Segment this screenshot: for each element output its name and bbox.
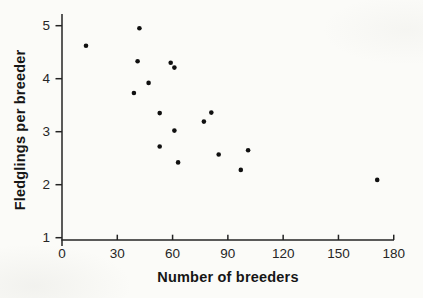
data-point [168,61,173,66]
x-axis-tick-labels: 0306090120150180 [58,246,405,261]
x-tick-label: 60 [165,246,180,261]
x-axis-label: Number of breeders [157,269,298,285]
y-tick-label: 2 [42,177,50,192]
x-tick-label: 180 [382,246,405,261]
y-tick-label: 5 [42,18,50,33]
scatter-plot-figure: 12345 0306090120150180 Number of breeder… [0,0,423,298]
data-point [135,59,140,64]
y-tick-label: 4 [42,71,50,86]
y-axis-tick-labels: 12345 [42,18,50,245]
x-tick-label: 90 [220,246,235,261]
data-point [202,119,207,124]
data-point [176,160,181,165]
data-point [239,168,244,173]
x-tick-label: 150 [327,246,350,261]
data-point [146,81,151,86]
data-point [375,178,380,183]
data-point [84,44,89,49]
data-point [157,111,162,116]
data-point [216,152,221,157]
y-axis-ticks [56,26,63,238]
y-axis-label: Fledglings per breeder [12,49,28,210]
x-tick-label: 30 [110,246,125,261]
data-point [172,65,177,70]
data-point [132,91,137,96]
data-point [209,110,214,115]
x-axis-ticks [117,235,393,240]
x-tick-label: 120 [272,246,295,261]
x-tick-label: 0 [58,246,66,261]
scatter-plot-canvas: 12345 0306090120150180 Number of breeder… [0,0,423,298]
y-tick-label: 3 [42,124,50,139]
data-point [246,148,251,153]
data-point [172,128,177,133]
data-point [157,144,162,149]
y-tick-label: 1 [42,230,50,245]
scatter-points [84,26,380,182]
data-point [137,26,142,31]
